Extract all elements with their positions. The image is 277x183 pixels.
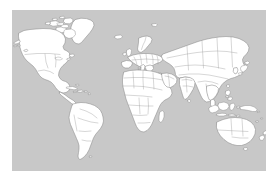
region-madagascar (159, 111, 164, 123)
region-fiji (261, 118, 263, 119)
region-north-america (19, 29, 71, 94)
region-sulawesi (230, 103, 235, 111)
region-philippines-luzon (226, 90, 231, 96)
region-corsica (139, 67, 141, 69)
region-europe (128, 54, 163, 69)
region-canadian-arctic-melville (57, 23, 64, 26)
region-taiwan (227, 85, 230, 88)
region-canadian-arctic-small-3 (60, 16, 66, 18)
region-canadian-arctic-small-2 (53, 18, 58, 20)
region-japan-hokkaido (245, 61, 250, 65)
region-canadian-arctic-small-1 (46, 22, 51, 25)
region-canadian-arctic-ellesmere (64, 18, 74, 24)
region-central-america (60, 92, 77, 105)
region-india (180, 77, 196, 100)
region-sumatra (209, 105, 219, 113)
region-nova-scotia (67, 58, 71, 60)
region-aleutian-islands-1 (14, 45, 17, 47)
region-alaska-peninsula (14, 40, 21, 44)
region-caribbean-lesser-antilles (89, 93, 91, 95)
region-svalbard (152, 24, 158, 27)
region-new-zealand-north (264, 131, 267, 136)
world-map-svg (12, 10, 266, 171)
region-tasmania (244, 148, 248, 151)
region-ireland (123, 53, 127, 56)
region-iceland (115, 35, 123, 39)
region-aleutian-islands-2 (18, 45, 20, 46)
region-philippines-visayas (226, 96, 229, 98)
world-map-figure (12, 10, 266, 171)
region-solomon-islands (258, 111, 260, 112)
region-lesser-sunda (228, 114, 235, 116)
region-borneo (218, 102, 229, 111)
region-scandinavia (138, 36, 153, 53)
region-caribbean-bahamas (76, 84, 79, 86)
region-java (217, 113, 228, 116)
region-new-zealand-south (259, 135, 264, 141)
region-caribbean-puerto-rico (85, 91, 88, 92)
region-sri-lanka (188, 100, 191, 103)
region-timor (237, 115, 241, 117)
region-moluccas (237, 106, 240, 108)
region-caribbean-jamaica (74, 91, 77, 92)
region-iberia (122, 61, 133, 69)
region-philippines-mindanao (228, 97, 233, 101)
region-southeast-asia (207, 85, 219, 101)
region-great-britain (127, 49, 132, 57)
region-new-guinea (240, 106, 257, 112)
region-newfoundland (70, 54, 75, 57)
region-new-caledonia (256, 121, 259, 123)
region-falkland-islands (90, 156, 93, 158)
region-australia (217, 118, 256, 146)
region-caribbean-hispaniola (78, 90, 84, 92)
